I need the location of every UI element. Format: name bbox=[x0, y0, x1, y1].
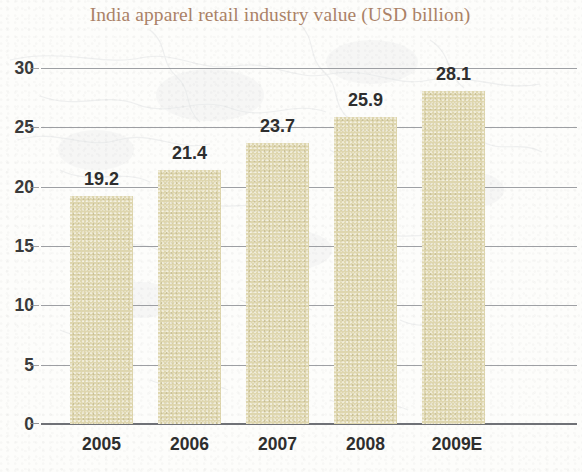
y-tick-mark-25 bbox=[30, 127, 39, 128]
y-axis-tick-0: 0 bbox=[0, 414, 34, 435]
x-axis-tick-2006: 2006 bbox=[158, 434, 221, 455]
x-axis-tick-2007: 2007 bbox=[246, 434, 309, 455]
bar-value-label-2007: 23.7 bbox=[246, 116, 309, 137]
bar-2007 bbox=[246, 143, 309, 424]
bar-value-label-2009e: 28.1 bbox=[422, 64, 485, 85]
y-tick-mark-5 bbox=[30, 365, 39, 366]
y-tick-mark-30 bbox=[30, 68, 39, 69]
gridline-25 bbox=[41, 127, 577, 128]
chart-title: India apparel retail industry value (USD… bbox=[0, 4, 560, 26]
y-axis-tick-15: 15 bbox=[0, 236, 34, 257]
bar-2006 bbox=[158, 170, 221, 424]
y-axis-tick-5: 5 bbox=[0, 355, 34, 376]
x-axis-tick-2005: 2005 bbox=[70, 434, 133, 455]
gridline-30 bbox=[41, 68, 577, 69]
y-tick-mark-0 bbox=[30, 423, 39, 424]
x-axis-tick-2008: 2008 bbox=[334, 434, 397, 455]
y-tick-mark-20 bbox=[30, 187, 39, 188]
bar-value-label-2008: 25.9 bbox=[334, 90, 397, 111]
bar-2005 bbox=[70, 196, 133, 424]
chart-screenshot: India apparel retail industry value (USD… bbox=[0, 0, 582, 472]
plot-area: 19.2 21.4 23.7 25.9 28.1 bbox=[41, 68, 577, 424]
y-axis-tick-10: 10 bbox=[0, 295, 34, 316]
y-tick-mark-10 bbox=[30, 305, 39, 306]
y-axis-tick-25: 25 bbox=[0, 117, 34, 138]
bar-value-label-2005: 19.2 bbox=[70, 169, 133, 190]
bar-2009e bbox=[422, 91, 485, 424]
x-axis-tick-2009e: 2009E bbox=[420, 434, 494, 455]
y-axis-tick-30: 30 bbox=[0, 58, 34, 79]
y-axis-tick-20: 20 bbox=[0, 177, 34, 198]
bar-value-label-2006: 21.4 bbox=[158, 143, 221, 164]
y-tick-mark-15 bbox=[30, 246, 39, 247]
bar-2008 bbox=[334, 117, 397, 424]
